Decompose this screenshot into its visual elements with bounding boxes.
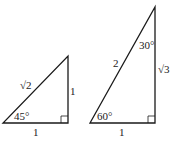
right-angle-marker <box>148 116 155 123</box>
triangle-30-60-90 <box>90 7 155 123</box>
angle-label-45: 45° <box>14 111 29 122</box>
base-label-2: 1 <box>119 127 125 138</box>
vertical-leg-label-2: √3 <box>158 64 170 75</box>
angle-label-30: 30° <box>139 40 154 51</box>
vertical-leg-label-1: 1 <box>70 86 76 97</box>
special-triangles-diagram: √2 1 1 45° 2 √3 1 60° 30° <box>0 0 175 142</box>
hypotenuse-label-2: 2 <box>113 58 119 69</box>
angle-label-60: 60° <box>97 111 112 122</box>
base-label-1: 1 <box>33 127 39 138</box>
triangle-45-45-90 <box>3 56 68 123</box>
right-angle-marker <box>61 116 68 123</box>
hypotenuse-label-1: √2 <box>20 80 32 91</box>
